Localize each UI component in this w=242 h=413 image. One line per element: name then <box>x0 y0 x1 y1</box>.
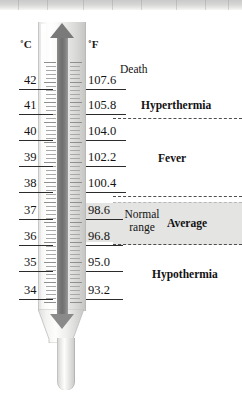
celsius-tick-rule-36 <box>19 245 53 246</box>
celsius-tick-rule-40 <box>19 140 53 141</box>
fahrenheit-tick-rule-105-8 <box>86 114 126 115</box>
celsius-tick-label-36: 36 <box>24 229 37 244</box>
arrow-up-icon <box>50 23 74 38</box>
celsius-tick-label-39: 39 <box>24 150 37 165</box>
zone-label-death: Death <box>120 63 147 75</box>
fahrenheit-tick-rule-95-0 <box>86 271 123 272</box>
celsius-tick-label-40: 40 <box>24 124 37 139</box>
thermometer-figure: ˚C 42 41 40 39 38 37 36 35 34 ˚F 107.6 1… <box>0 0 242 413</box>
celsius-tick-rule-42 <box>19 89 53 90</box>
fahrenheit-tick-rule-107-6 <box>86 89 126 90</box>
zone-label-hypothermia: Hypothermia <box>152 268 218 280</box>
celsius-header: ˚C <box>20 38 32 50</box>
celsius-tick-rule-35 <box>19 271 53 272</box>
celsius-tick-rule-34 <box>19 299 53 300</box>
fahrenheit-tick-label-102-2: 102.2 <box>88 150 116 165</box>
fahrenheit-tick-label-96-8: 96.8 <box>88 229 110 244</box>
fever-divider <box>113 196 242 197</box>
fahrenheit-tick-label-98-6: 98.6 <box>88 203 110 218</box>
normal-range-line-2: range <box>129 221 155 233</box>
celsius-tick-label-42: 42 <box>24 73 37 88</box>
arrow-down-icon <box>50 314 74 329</box>
celsius-tick-rule-37 <box>19 219 53 220</box>
hyperthermia-divider <box>113 118 242 119</box>
fahrenheit-tick-rule-93-2 <box>86 299 123 300</box>
mercury-column <box>57 36 68 318</box>
fahrenheit-tick-label-95-0: 95.0 <box>88 255 110 270</box>
celsius-tick-label-38: 38 <box>24 176 37 191</box>
fahrenheit-tick-rule-98-6 <box>86 219 123 220</box>
fahrenheit-tick-rule-104-0 <box>86 140 126 141</box>
celsius-tick-label-41: 41 <box>24 98 37 113</box>
fahrenheit-tick-rule-100-4 <box>86 192 126 193</box>
celsius-tick-rule-41 <box>19 114 53 115</box>
fahrenheit-tick-label-104-0: 104.0 <box>88 124 116 139</box>
fahrenheit-tick-label-100-4: 100.4 <box>88 176 116 191</box>
thermometer-bulb <box>57 338 75 390</box>
celsius-tick-rule-38 <box>19 192 53 193</box>
fahrenheit-tick-label-93-2: 93.2 <box>88 283 110 298</box>
scan-edge-band <box>0 0 242 10</box>
zone-label-hyperthermia: Hyperthermia <box>141 99 211 111</box>
fahrenheit-tick-label-107-6: 107.6 <box>88 73 116 88</box>
fahrenheit-tick-rule-96-8 <box>86 245 123 246</box>
zone-label-average: Average <box>167 217 207 229</box>
zone-label-fever: Fever <box>158 152 186 164</box>
celsius-tick-label-37: 37 <box>24 203 37 218</box>
zone-label-normal-range: Normal range <box>119 208 165 234</box>
celsius-tick-label-35: 35 <box>24 255 37 270</box>
celsius-tick-rule-39 <box>19 166 53 167</box>
celsius-tick-label-34: 34 <box>24 283 37 298</box>
normal-range-line-1: Normal <box>124 208 159 220</box>
fahrenheit-tick-rule-102-2 <box>86 166 126 167</box>
fahrenheit-tick-label-105-8: 105.8 <box>88 98 116 113</box>
fahrenheit-header: ˚F <box>88 38 99 50</box>
